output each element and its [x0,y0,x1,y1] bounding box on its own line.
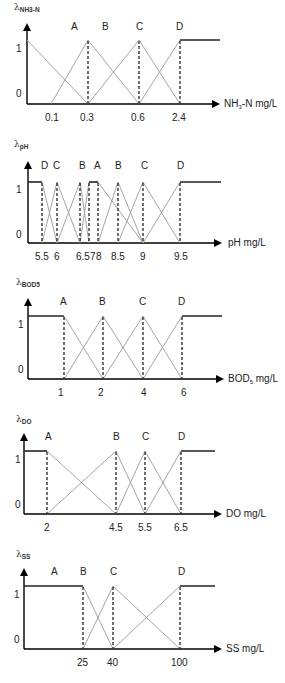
y-tick-1: 1 [16,184,22,195]
class-label-a: A [45,431,52,442]
class-label-c: C [110,566,117,577]
chart-nh3n: λNH3-N 1 0 A B C D 0.1 0.3 0.6 2.4 NH3-N… [14,2,278,123]
mf-c [88,40,180,104]
x-tick: 2.4 [172,112,186,123]
x-tick: 9.5 [174,251,188,262]
y-tick-0: 0 [16,229,22,240]
y-axis-label-bod5: λBOD5 [16,277,40,288]
y-axis-label-nh3n: λNH3-N [14,2,40,13]
class-label-b: B [113,431,120,442]
x-tick: 6.57 [76,251,96,262]
y-axis-label-do: λDO [16,414,31,425]
class-label-c: C [141,160,148,171]
class-label-a: A [94,160,101,171]
y-tick-1: 1 [14,589,20,600]
class-label-b: B [115,160,122,171]
y-tick-0: 0 [15,499,21,510]
chart-ss: λSS 1 0 A B C D 25 40 100 SS mg/L [14,549,265,668]
x-tick: 0.1 [45,112,59,123]
class-label-a: A [51,566,58,577]
x-axis-label-nh3n: NH3-N mg/L [224,98,278,110]
y-tick-0: 0 [18,364,24,375]
x-tick: 0.3 [80,112,94,123]
class-label-d: D [178,296,185,307]
class-label-c: C [136,21,143,32]
x-tick: 2 [98,387,104,398]
x-axis-label-ph: pH mg/L [228,237,266,248]
chart-do: λDO 1 0 A B C D 2 4.5 5.5 6.5 DO mg/L [15,414,266,533]
x-tick: 4 [141,387,147,398]
class-label-b: B [79,160,86,171]
x-tick: 0.6 [131,112,145,123]
y-tick-1: 1 [16,43,22,54]
x-tick: 2 [44,522,50,533]
class-label-d: D [176,21,183,32]
x-axis-label-do: DO mg/L [226,508,266,519]
class-label-d: D [178,566,185,577]
x-tick: 25 [77,657,89,668]
class-label-d: D [177,160,184,171]
class-label-d: D [41,160,48,171]
x-tick: 6 [54,251,60,262]
chart-ph: λpH 1 0 D C B A B C D 5.5 6 6.57 8 [14,139,266,262]
mf-c-low [42,182,80,243]
x-tick: 5.5 [35,251,49,262]
x-tick: 9 [140,251,146,262]
x-axis-label-bod5: BOD5 mg/L [228,373,278,385]
class-label-b: B [99,296,106,307]
y-tick-1: 1 [15,454,21,465]
y-tick-0: 0 [14,634,20,645]
x-tick: 8.5 [111,251,125,262]
class-label-b: B [102,21,109,32]
mf-a-fall [98,182,143,243]
y-tick-1: 1 [18,319,24,330]
class-label-c: C [53,160,60,171]
mf-c [116,451,181,514]
y-axis-label-ph: λpH [14,139,29,151]
class-label-c: C [142,431,149,442]
x-tick: 6.5 [174,522,188,533]
x-tick: 40 [107,657,119,668]
x-tick: 100 [171,657,188,668]
y-axis-label-ss: λSS [16,549,31,560]
mf-c [83,586,180,649]
class-label-b: B [80,566,87,577]
class-label-a: A [60,296,67,307]
x-tick: 8 [96,251,102,262]
mf-a [27,40,88,104]
class-label-d: D [178,431,185,442]
x-tick: 4.5 [109,522,123,533]
x-tick: 1 [58,387,64,398]
class-label-c: C [139,296,146,307]
mf-b [51,40,139,104]
y-tick-0: 0 [16,88,22,99]
x-axis-label-ss: SS mg/L [226,643,265,654]
chart-bod5: λBOD5 1 0 A B C D 1 2 4 6 BOD5 mg/L [16,277,278,398]
class-label-a: A [71,21,78,32]
x-tick: 6 [181,387,187,398]
x-tick: 5.5 [138,522,152,533]
